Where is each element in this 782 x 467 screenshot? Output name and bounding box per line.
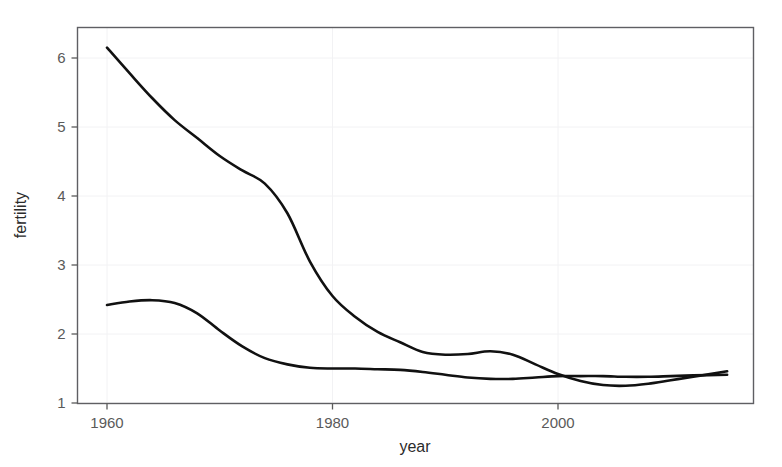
- y-tick-label: 3: [57, 256, 65, 273]
- y-tick-label: 1: [57, 394, 65, 411]
- chart-canvas: 123456 196019802000 year fertility: [0, 0, 782, 467]
- x-axis-title: year: [399, 438, 431, 455]
- y-tick-label: 4: [57, 187, 65, 204]
- x-tick-label: 2000: [541, 414, 574, 431]
- chart-background: [0, 0, 782, 467]
- y-tick-label: 2: [57, 325, 65, 342]
- x-tick-label: 1980: [316, 414, 349, 431]
- x-tick-label: 1960: [90, 414, 123, 431]
- y-axis-title: fertility: [12, 192, 29, 238]
- y-tick-label: 5: [57, 118, 65, 135]
- fertility-line-chart: 123456 196019802000 year fertility: [0, 0, 782, 467]
- y-tick-label: 6: [57, 49, 65, 66]
